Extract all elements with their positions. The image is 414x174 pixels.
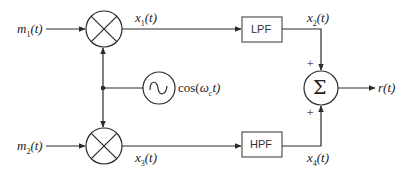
x4-line: [282, 106, 321, 146]
sigma-icon: Σ: [313, 78, 326, 97]
junction-dot: [101, 86, 106, 91]
x2-line: [282, 29, 321, 70]
top-multiplier-icon: [86, 11, 122, 47]
m2-label: m2(t): [17, 139, 43, 156]
oscillator-label: cos(ωct): [178, 81, 220, 98]
x4-label: x4(t): [307, 151, 329, 168]
output-label: r(t): [378, 81, 395, 94]
lpf-label: LPF: [251, 24, 271, 35]
x1-label: x1(t): [135, 11, 157, 28]
sine-oscillator-icon: [143, 72, 175, 104]
x2-label: x2(t): [307, 11, 329, 28]
hpf-label: HPF: [250, 139, 272, 150]
bottom-multiplier-icon: [86, 128, 122, 164]
x3-label: x3(t): [135, 151, 157, 168]
m1-label: m1(t): [17, 22, 43, 39]
sum-bottom-plus: +: [307, 107, 313, 118]
sum-top-plus: +: [307, 58, 313, 69]
